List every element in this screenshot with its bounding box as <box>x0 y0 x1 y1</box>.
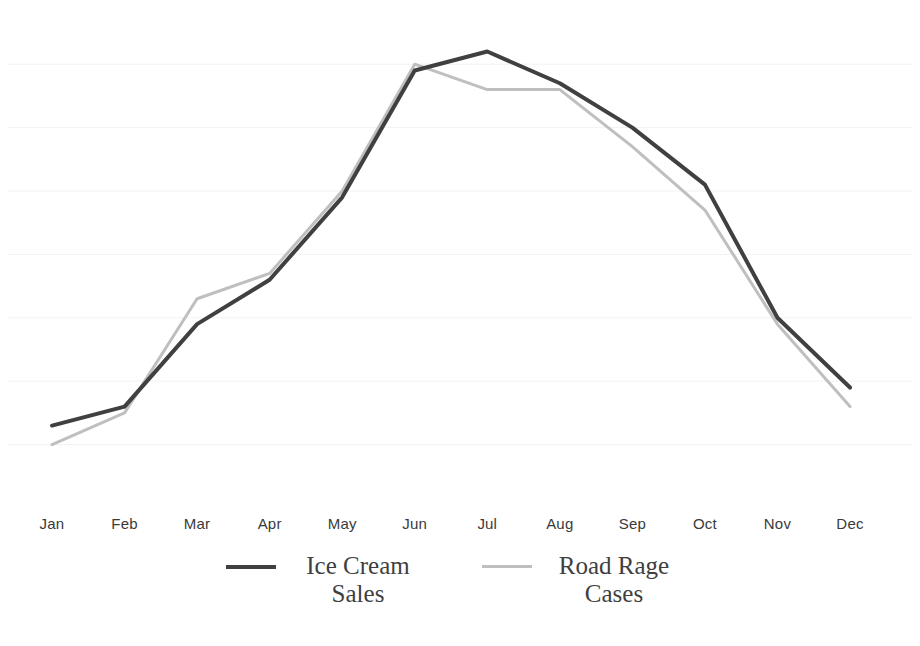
legend-swatch-icon <box>482 565 532 568</box>
x-tick-label-sep: Sep <box>619 515 646 532</box>
x-tick-label-aug: Aug <box>546 515 573 532</box>
x-tick-label-feb: Feb <box>111 515 137 532</box>
chart-legend: Ice CreamSalesRoad RageCases <box>0 552 920 608</box>
legend-swatch-icon <box>226 565 276 569</box>
line-chart-plot <box>0 0 920 646</box>
chart-container: JanFebMarAprMayJunJulAugSepOctNovDec Ice… <box>0 0 920 646</box>
series-line-ice-cream-sales <box>52 52 850 426</box>
x-tick-label-jan: Jan <box>40 515 65 532</box>
x-tick-label-mar: Mar <box>184 515 210 532</box>
x-axis-tick-labels: JanFebMarAprMayJunJulAugSepOctNovDec <box>0 515 920 541</box>
x-tick-label-dec: Dec <box>836 515 863 532</box>
series-lines <box>52 52 850 445</box>
x-tick-label-jun: Jun <box>402 515 427 532</box>
legend-entry-ice-cream[interactable]: Ice CreamSales <box>226 552 438 608</box>
legend-label: Road RageCases <box>534 552 694 608</box>
legend-entry-road-rage[interactable]: Road RageCases <box>482 552 694 608</box>
x-tick-label-may: May <box>328 515 357 532</box>
x-tick-label-jul: Jul <box>477 515 497 532</box>
x-tick-label-nov: Nov <box>764 515 791 532</box>
x-tick-label-oct: Oct <box>693 515 717 532</box>
legend-label: Ice CreamSales <box>278 552 438 608</box>
x-tick-label-apr: Apr <box>258 515 282 532</box>
